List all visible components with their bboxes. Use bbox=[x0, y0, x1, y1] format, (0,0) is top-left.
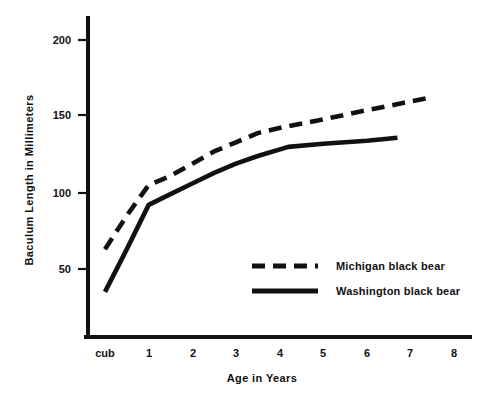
chart-legend: Michigan black bear Washington black bea… bbox=[252, 260, 461, 297]
x-tick-label-7: 7 bbox=[407, 347, 413, 359]
y-tick-label-150: 150 bbox=[53, 109, 71, 121]
x-tick-label-2: 2 bbox=[190, 347, 196, 359]
x-tick-label-1: 1 bbox=[146, 347, 152, 359]
x-tick-label-5: 5 bbox=[320, 347, 326, 359]
x-tick-label-cub: cub bbox=[95, 347, 115, 359]
x-tick-label-3: 3 bbox=[233, 347, 239, 359]
x-axis-title: Age in Years bbox=[227, 372, 298, 384]
y-axis-title: Baculum Length in Millimeters bbox=[23, 94, 35, 265]
chart-figure: 200 150 100 50 cub 1 2 3 4 5 6 7 8 Bacul… bbox=[0, 0, 491, 403]
x-tick-label-8: 8 bbox=[451, 347, 457, 359]
x-tick-label-6: 6 bbox=[364, 347, 370, 359]
series-line-michigan-black-bear bbox=[105, 98, 428, 249]
y-tick-label-100: 100 bbox=[53, 187, 71, 199]
legend-label-washington: Washington black bear bbox=[336, 285, 461, 297]
y-tick-label-200: 200 bbox=[53, 34, 71, 46]
y-tick-label-50: 50 bbox=[59, 263, 71, 275]
legend-label-michigan: Michigan black bear bbox=[336, 260, 445, 272]
x-tick-label-4: 4 bbox=[277, 347, 284, 359]
line-chart-canvas: 200 150 100 50 cub 1 2 3 4 5 6 7 8 Bacul… bbox=[0, 0, 491, 403]
